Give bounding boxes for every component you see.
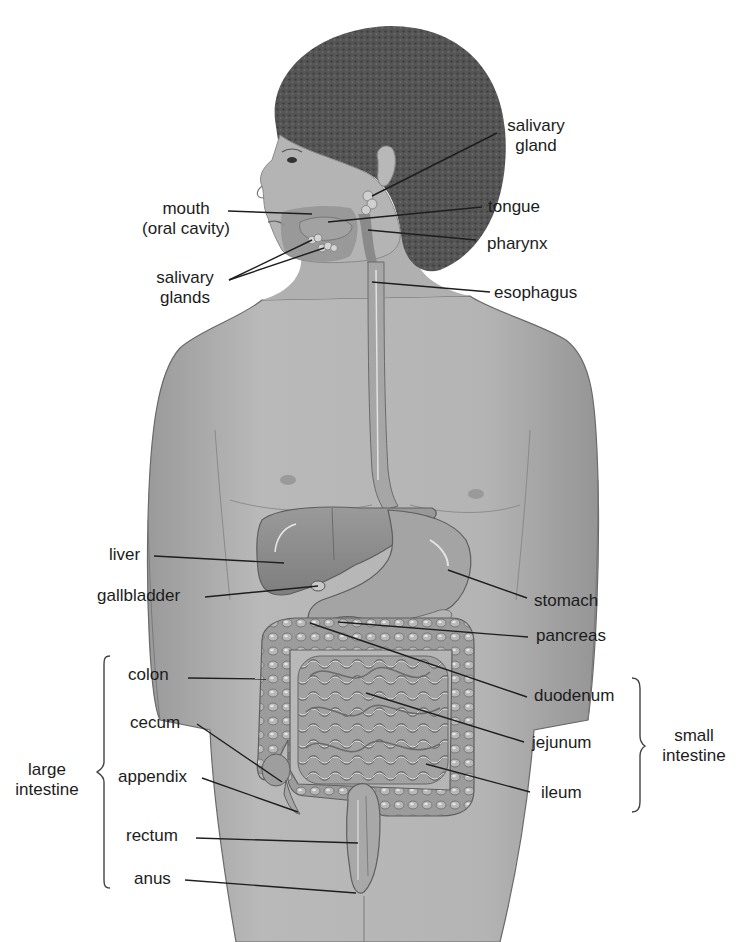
label-rectum: rectum bbox=[126, 826, 178, 846]
label-pancreas: pancreas bbox=[536, 626, 606, 646]
label-mouth: mouth (oral cavity) bbox=[130, 199, 242, 239]
label-salivary-glands: salivary glands bbox=[145, 268, 225, 308]
label-ileum: ileum bbox=[541, 783, 582, 803]
digestive-system-diagram: salivary gland tongue pharynx esophagus … bbox=[0, 0, 746, 942]
label-salivary-gland: salivary gland bbox=[496, 116, 576, 156]
label-gallbladder: gallbladder bbox=[97, 586, 180, 606]
label-small-intestine: small intestine bbox=[648, 726, 740, 766]
label-esophagus: esophagus bbox=[494, 283, 577, 303]
label-jejunum: jejunum bbox=[532, 733, 592, 753]
label-large-intestine: large intestine bbox=[0, 760, 94, 800]
small-intestine-brace bbox=[632, 678, 645, 812]
label-liver: liver bbox=[109, 545, 140, 565]
label-duodenum: duodenum bbox=[534, 686, 614, 706]
label-tongue: tongue bbox=[488, 197, 540, 217]
large-intestine-brace bbox=[97, 656, 110, 888]
leader-colon bbox=[188, 678, 266, 679]
label-cecum: cecum bbox=[130, 713, 180, 733]
label-colon: colon bbox=[128, 665, 169, 685]
label-pharynx: pharynx bbox=[487, 234, 547, 254]
label-appendix: appendix bbox=[118, 767, 187, 787]
anatomy-illustration bbox=[0, 0, 746, 942]
label-stomach: stomach bbox=[534, 591, 598, 611]
label-anus: anus bbox=[134, 869, 171, 889]
